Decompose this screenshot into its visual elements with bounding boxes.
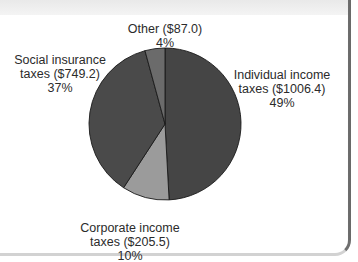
- label-corporate-income: Corporate income taxes ($205.5) 10%: [80, 221, 180, 262]
- label-social-percent: 37%: [10, 81, 110, 95]
- label-social-insurance: Social insurance taxes ($749.2) 37%: [10, 53, 110, 95]
- label-other-percent: 4%: [115, 36, 215, 50]
- pie-slices: [89, 48, 241, 200]
- label-corporate-name: Corporate income: [80, 221, 180, 235]
- label-social-name: Social insurance: [10, 53, 110, 67]
- label-individual-name: Individual income: [227, 68, 337, 82]
- label-social-value: taxes ($749.2): [10, 67, 110, 81]
- label-corporate-percent: 10%: [80, 249, 180, 262]
- label-individual-value: taxes ($1006.4): [227, 82, 337, 96]
- label-individual-income: Individual income taxes ($1006.4) 49%: [227, 68, 337, 110]
- label-corporate-value: taxes ($205.5): [80, 235, 180, 249]
- label-other-name: Other ($87.0): [115, 22, 215, 36]
- label-other: Other ($87.0) 4%: [115, 22, 215, 50]
- label-individual-percent: 49%: [227, 96, 337, 110]
